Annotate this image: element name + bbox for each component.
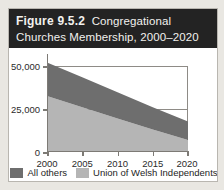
legend-swatch-all-others: [10, 168, 23, 178]
legend-label-union-welsh-independents: Union of Welsh Independents: [93, 167, 217, 178]
y-axis-line: [47, 54, 48, 152]
y-tick-mark-25000: [43, 109, 47, 111]
figure-title-line-2: Churches Membership, 2000–2020: [16, 29, 212, 45]
x-tick-mark-2000: [47, 152, 49, 156]
plot-area: 0 25,000 50,000 2000 2005 2010 2015 2020: [47, 66, 188, 152]
x-tick-mark-2005: [82, 152, 84, 156]
legend-entry-union-welsh-independents: Union of Welsh Independents: [76, 167, 217, 178]
legend-entry-all-others: All others: [10, 167, 67, 178]
figure-caption-part-1: [85, 15, 92, 27]
y-tick-label-50000: 50,000: [11, 61, 40, 72]
figure-title-line-1: Figure 9.5.2 Congregational: [16, 13, 212, 29]
legend-swatch-union-welsh-independents: [76, 168, 89, 178]
x-tick-mark-2015: [153, 152, 155, 156]
figure-card: Figure 9.5.2 Congregational Churches Mem…: [8, 8, 218, 182]
legend-label-all-others: All others: [27, 167, 67, 178]
chart-legend: All others Union of Welsh Independents: [9, 167, 218, 178]
plot-body: 0 25,000 50,000 2000 2005 2010 2015 2020…: [9, 48, 218, 182]
figure-number: Figure 9.5.2: [16, 14, 85, 28]
figure-caption-word: Congregational: [92, 15, 171, 27]
figure-header: Figure 9.5.2 Congregational Churches Mem…: [9, 9, 218, 48]
y-tick-mark-50000: [43, 66, 47, 68]
stacked-area-series: [47, 52, 188, 152]
x-tick-mark-2020: [187, 152, 189, 156]
x-tick-mark-2010: [118, 152, 120, 156]
y-tick-label-0: 0: [35, 147, 40, 158]
y-tick-label-25000: 25,000: [11, 104, 40, 115]
